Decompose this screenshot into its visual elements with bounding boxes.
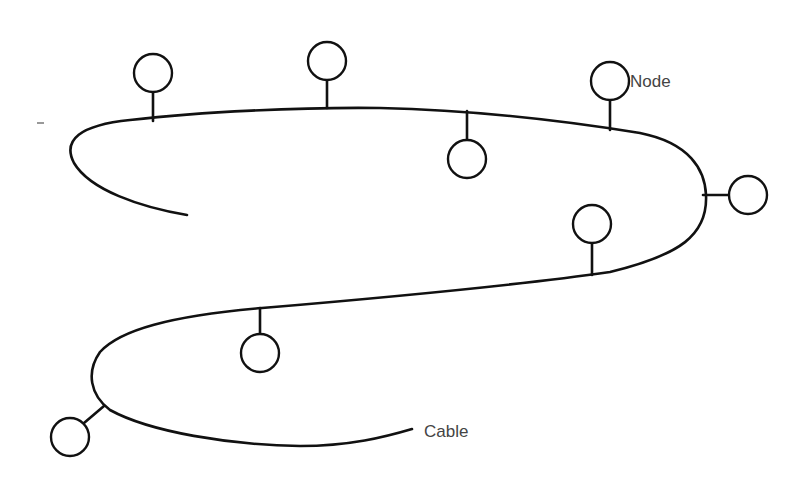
node-5-circle xyxy=(729,176,767,214)
node-4-circle xyxy=(591,62,629,100)
node-1-circle xyxy=(134,54,172,92)
node-6-circle xyxy=(573,205,611,243)
node-8-drop-line xyxy=(84,406,104,423)
node-3 xyxy=(448,111,486,178)
node-3-circle xyxy=(448,140,486,178)
node-2 xyxy=(308,42,346,108)
stray-mark xyxy=(37,122,44,124)
cable-label: Cable xyxy=(424,423,468,440)
node-label: Node xyxy=(630,73,671,90)
node-8-circle xyxy=(51,418,89,456)
node-7 xyxy=(241,308,279,372)
node-7-circle xyxy=(241,334,279,372)
node-1 xyxy=(134,54,172,121)
bus-cable xyxy=(70,108,706,446)
node-2-circle xyxy=(308,42,346,80)
node-8 xyxy=(51,406,104,456)
node-6 xyxy=(573,205,611,275)
bus-topology-diagram xyxy=(0,0,809,488)
node-5 xyxy=(703,176,767,214)
node-4 xyxy=(591,62,629,130)
